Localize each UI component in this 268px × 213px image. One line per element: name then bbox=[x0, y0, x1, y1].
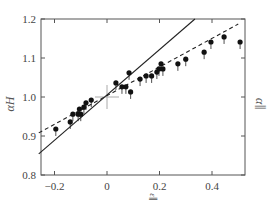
data-point bbox=[149, 73, 154, 78]
y-tick-label: 1.2 bbox=[22, 13, 36, 25]
data-point bbox=[221, 34, 226, 39]
y-axis-label-right: α∥ bbox=[253, 98, 267, 110]
plot-frame bbox=[41, 19, 245, 175]
data-point bbox=[202, 50, 207, 55]
x-tick-label: 0.4 bbox=[205, 180, 219, 192]
y-tick-label: 1.1 bbox=[22, 52, 36, 64]
x-tick-label: 0 bbox=[104, 180, 110, 192]
x-tick-label: 0.2 bbox=[153, 180, 167, 192]
x-tick-label: −0.2 bbox=[45, 180, 65, 192]
y-axis-label-left: αH bbox=[3, 95, 17, 111]
data-point bbox=[68, 119, 73, 124]
data-point bbox=[144, 73, 149, 78]
data-point bbox=[83, 100, 88, 105]
data-point bbox=[123, 84, 128, 89]
data-point bbox=[89, 98, 94, 103]
data-point bbox=[77, 106, 82, 111]
data-point bbox=[78, 112, 83, 117]
y-tick-label: 1.0 bbox=[22, 91, 36, 103]
data-point bbox=[126, 70, 131, 75]
fit-lines bbox=[39, 19, 239, 154]
origin-crosshair bbox=[95, 85, 119, 109]
data-point bbox=[53, 126, 58, 131]
data-point bbox=[183, 57, 188, 62]
data-points bbox=[53, 34, 242, 136]
data-point bbox=[70, 112, 75, 117]
plot-border bbox=[41, 19, 245, 175]
data-point bbox=[158, 61, 163, 66]
data-point bbox=[175, 61, 180, 66]
data-point bbox=[137, 76, 142, 81]
data-point bbox=[208, 39, 213, 44]
solid-fit-line bbox=[39, 19, 195, 154]
chart: 0.80.91.01.11.2−0.200.20.4 αH α∥ ε∥ bbox=[0, 0, 268, 213]
y-tick-label: 0.8 bbox=[22, 169, 36, 181]
y-tick-label: 0.9 bbox=[22, 130, 36, 142]
x-axis-label: ε∥ bbox=[148, 193, 158, 201]
data-point bbox=[128, 89, 133, 94]
data-point bbox=[113, 80, 118, 85]
data-point bbox=[160, 66, 165, 71]
data-point bbox=[237, 39, 242, 44]
